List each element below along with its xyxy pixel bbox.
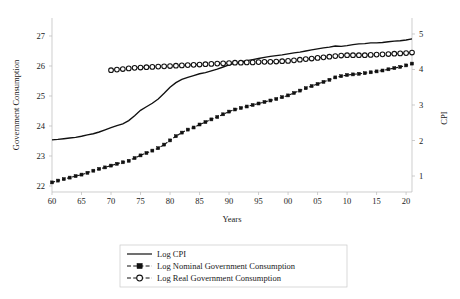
data-point-marker <box>392 51 397 56</box>
data-point-marker <box>144 65 149 70</box>
data-point-marker <box>127 159 130 162</box>
x-tick-label: 90 <box>225 196 234 206</box>
data-point-marker <box>239 107 242 110</box>
data-point-marker <box>286 59 291 64</box>
chart-legend: Log CPI Log Nominal Government Consumpti… <box>120 245 347 287</box>
data-point-marker <box>150 65 155 70</box>
data-point-marker <box>115 162 118 165</box>
data-point-marker <box>56 179 59 182</box>
data-point-marker <box>163 143 166 146</box>
y-axis-left-title: Government Consumption <box>11 59 21 150</box>
data-point-marker <box>145 152 148 155</box>
data-point-marker <box>256 60 261 65</box>
data-point-marker <box>340 75 343 78</box>
y-tick-label-left: 24 <box>37 121 46 131</box>
data-point-marker <box>233 60 238 65</box>
data-point-marker <box>80 173 83 176</box>
legend-label-log-cpi: Log CPI <box>157 249 186 259</box>
data-point-marker <box>257 102 260 105</box>
data-point-marker <box>268 59 273 64</box>
data-point-marker <box>198 123 201 126</box>
data-point-marker <box>363 72 366 75</box>
data-point-marker <box>245 105 248 108</box>
data-point-marker <box>197 62 202 67</box>
data-point-marker <box>156 64 161 69</box>
data-point-marker <box>292 58 297 63</box>
x-tick-label: 75 <box>136 196 145 206</box>
data-point-marker <box>280 59 285 64</box>
data-point-marker <box>86 171 89 174</box>
y-tick-label-left: 22 <box>37 181 46 191</box>
data-point-marker <box>210 118 213 121</box>
data-point-marker <box>209 62 214 67</box>
data-point-marker <box>310 85 313 88</box>
data-point-marker <box>222 113 225 116</box>
legend-marker-circle <box>137 275 143 281</box>
y-tick-label-right: 1 <box>419 171 423 181</box>
data-point-marker <box>62 178 65 181</box>
data-point-marker <box>115 67 120 72</box>
data-point-marker <box>398 51 403 56</box>
data-point-marker <box>357 72 360 75</box>
data-point-marker <box>292 92 295 95</box>
data-point-marker <box>374 52 379 57</box>
x-axis-title: Years <box>223 214 242 224</box>
data-point-marker <box>380 52 385 57</box>
data-point-marker <box>109 68 114 73</box>
data-point-marker <box>233 108 236 111</box>
data-point-marker <box>221 61 226 66</box>
data-point-marker <box>281 96 284 99</box>
data-point-marker <box>275 98 278 101</box>
y-axis-right-title: CPI <box>439 111 449 124</box>
x-tick-label: 80 <box>166 196 175 206</box>
data-point-marker <box>357 53 362 58</box>
data-point-marker <box>404 51 409 56</box>
x-tick-label: 20 <box>402 196 411 206</box>
data-point-marker <box>333 54 338 59</box>
data-point-marker <box>74 175 77 178</box>
data-point-marker <box>104 166 107 169</box>
data-point-marker <box>185 63 190 68</box>
data-point-marker <box>162 64 167 69</box>
data-point-marker <box>151 149 154 152</box>
x-tick-label: 60 <box>48 196 57 206</box>
data-point-marker <box>139 154 142 157</box>
data-point-marker <box>327 54 332 59</box>
data-point-marker <box>346 74 349 77</box>
data-point-marker <box>351 73 354 76</box>
data-point-marker <box>304 87 307 90</box>
data-point-marker <box>191 62 196 67</box>
x-tick-label: 70 <box>107 196 116 206</box>
data-point-marker <box>239 60 244 65</box>
x-tick-label: 00 <box>284 196 293 206</box>
data-point-marker <box>251 104 254 107</box>
data-point-marker <box>180 131 183 134</box>
y-tick-label-left: 27 <box>37 31 46 41</box>
data-point-marker <box>227 61 232 66</box>
x-tick-label: 85 <box>195 196 204 206</box>
x-tick-label: 10 <box>343 196 352 206</box>
y-tick-label-right: 2 <box>419 136 423 146</box>
data-point-marker <box>386 52 391 57</box>
data-point-marker <box>215 61 220 66</box>
data-point-marker <box>120 67 125 72</box>
data-point-marker <box>68 176 71 179</box>
data-point-marker <box>92 169 95 172</box>
data-point-marker <box>98 167 101 170</box>
y-tick-label-right: 3 <box>419 100 423 110</box>
data-point-marker <box>262 59 267 64</box>
data-point-marker <box>334 76 337 79</box>
data-point-marker <box>339 53 344 58</box>
data-point-marker <box>368 53 373 58</box>
data-point-marker <box>250 60 255 65</box>
data-point-marker <box>132 65 137 70</box>
data-point-marker <box>269 99 272 102</box>
data-point-marker <box>179 63 184 68</box>
data-point-marker <box>405 64 408 67</box>
data-point-marker <box>362 53 367 58</box>
x-tick-label: 15 <box>372 196 381 206</box>
y-tick-label-left: 25 <box>37 91 46 101</box>
data-point-marker <box>315 56 320 61</box>
data-point-marker <box>274 59 279 64</box>
data-point-marker <box>186 128 189 131</box>
